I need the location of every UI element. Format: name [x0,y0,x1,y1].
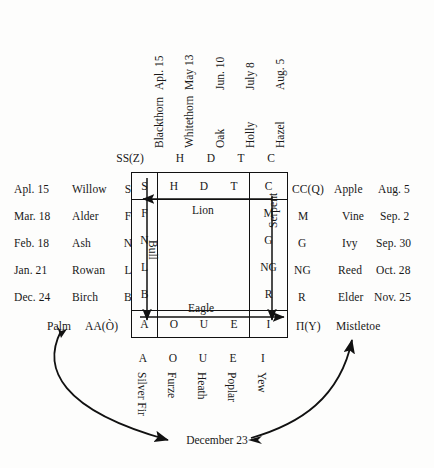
left-row-3-tree: Rowan [72,264,120,276]
left-row-3-date: Jan. 21 [14,264,70,276]
grid-top-1: H [161,181,187,193]
right-row-3-date: Oct. 28 [376,264,430,276]
bottom-tree-2: Heath [196,372,208,399]
grid-top-3: T [221,181,247,193]
bottom-letter-0: A [126,352,160,364]
grid-top-2: D [191,181,217,193]
right-row-2-date: Sep. 30 [376,237,430,249]
left-row-0-date: Apl. 15 [14,183,70,195]
left-palm-letter: AA(Ò) [85,320,137,332]
top-date-3: July 8 [245,62,257,90]
top-letter-2: D [194,152,228,164]
grid-bottom-1: O [161,319,187,331]
bottom-letter-3: E [216,352,250,364]
right-row-2: G Ivy Sep. 30 [292,237,434,251]
right-mistletoe-letter: Π(Y) [296,320,330,332]
right-row-3: NG Reed Oct. 28 [292,264,434,278]
bottom-letter-2: U [186,352,220,364]
right-row-0: CC(Q) Apple Aug. 5 [292,183,434,197]
right-row-2-letter: G [298,237,332,249]
grid-left-1: F [132,208,157,220]
right-row-4: R Elder Nov. 25 [292,291,434,305]
right-row-1-letter: M [298,210,332,222]
left-palm-tree: Palm [47,320,81,332]
right-row-3-letter: NG [294,264,328,276]
top-tree-0: Blackthorn [154,97,166,148]
left-row-2-tree: Ash [72,237,120,249]
right-row-1-date: Sep. 2 [380,210,434,222]
left-row-4: Dec. 24 Birch B [14,291,138,305]
season-bottom-eagle: Eagle [188,303,214,315]
season-left-bull: Bull [147,240,159,260]
left-palm-row: Palm AA(Ò) [47,320,139,334]
bottom-tree-0: Silver Fir [136,372,148,416]
arc-arrow-left-to-december [54,331,168,440]
grid-bottom-3: E [221,319,247,331]
december-pivot-label: December 23 [0,434,434,446]
right-mistletoe-tree: Mistletoe [336,320,406,332]
top-letter-3: T [224,152,258,164]
left-row-0-tree: Willow [72,183,120,195]
top-letter-4: C [254,152,288,164]
left-row-2-date: Feb. 18 [14,237,70,249]
top-tree-4: Hazel [275,121,287,148]
right-row-4-date: Nov. 25 [374,291,428,303]
top-date-2: Jun. 10 [215,57,227,90]
bottom-letter-4: I [246,352,280,364]
diagram-canvas: Apl. 15 May 13 Jun. 10 July 8 Aug. 5 Bla… [0,0,434,468]
left-row-1-tree: Alder [72,210,120,222]
grid-right-2: G [250,235,287,247]
grid-bottom-2: U [191,319,217,331]
right-row-0-date: Aug. 5 [378,183,432,195]
top-tree-2: Oak [215,129,227,148]
bottom-tree-3: Poplar [226,372,238,402]
bottom-tree-1: Furze [166,372,178,398]
top-letter-0: SS(Z) [113,152,147,164]
right-row-1: M Vine Sep. 2 [292,210,434,224]
season-right-serpent: Serpent [268,193,280,228]
right-row-4-letter: R [298,291,332,303]
grid-vline-2 [249,173,250,337]
right-mistletoe-row: Π(Y) Mistletoe [292,320,434,334]
bottom-tree-4: Yew [256,372,268,393]
left-row-4-date: Dec. 24 [14,291,70,303]
right-row-0-letter: CC(Q) [292,183,326,195]
grid-left-4: B [132,289,157,301]
left-row-0: Apl. 15 Willow S [14,183,138,197]
bottom-letter-1: O [156,352,190,364]
grid-left-3: L [132,262,157,274]
top-tree-3: Holly [245,122,257,148]
right-row-0-tree: Apple [334,183,380,195]
grid-top-4: C [250,181,287,193]
grid-right-3: NG [250,262,287,274]
grid-hline-1 [132,199,287,200]
grid-bottom-0: A [132,319,157,331]
top-tree-1: Whitethorn [184,96,196,148]
left-row-1-date: Mar. 18 [14,210,70,222]
top-letter-1: H [163,152,197,164]
left-row-1: Mar. 18 Alder F [14,210,138,224]
season-top-lion: Lion [192,205,214,217]
grid-bottom-4: I [250,319,287,331]
left-row-3: Jan. 21 Rowan L [14,264,138,278]
top-date-0: Apl. 15 [154,56,166,91]
top-date-4: Aug. 5 [275,59,287,90]
grid-right-4: R [250,289,287,301]
top-date-1: May 13 [184,55,196,90]
left-row-2: Feb. 18 Ash N [14,237,138,251]
left-row-4-tree: Birch [72,291,120,303]
grid-top-0: S [132,181,157,193]
